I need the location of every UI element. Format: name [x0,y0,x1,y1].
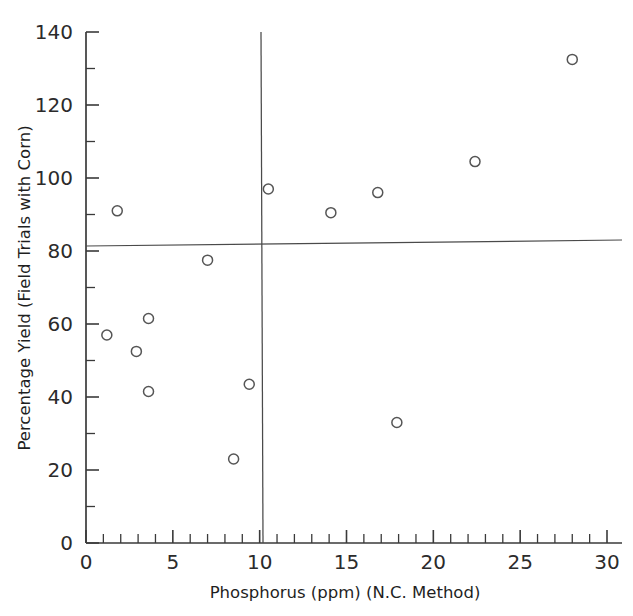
vertical-critical-level-line [261,32,263,543]
data-point-marker [567,54,577,64]
y-axis-tick-labels: 020406080100120140 [35,20,73,555]
data-point-marker [470,157,480,167]
x-tick-label: 20 [421,550,446,574]
y-tick-label: 100 [35,166,73,190]
data-point-marker [373,188,383,198]
reference-lines [86,32,622,543]
y-tick-label: 40 [48,385,73,409]
data-point-marker [229,454,239,464]
data-point-marker [326,208,336,218]
data-point-marker [102,330,112,340]
scatter-plot-figure: 020406080100120140 051015202530 Phosphor… [0,0,633,616]
data-point-marker [263,184,273,194]
data-point-marker [392,418,402,428]
y-tick-label: 60 [48,312,73,336]
data-point-marker [244,379,254,389]
x-tick-label: 10 [247,550,272,574]
data-point-group [102,54,577,464]
data-point-marker [131,346,141,356]
y-axis-title: Percentage Yield (Field Trials with Corn… [15,125,34,450]
x-axis-tick-labels: 051015202530 [80,550,620,574]
x-axis-ticks [86,530,607,543]
x-tick-label: 0 [80,550,93,574]
x-tick-label: 25 [507,550,532,574]
y-tick-label: 20 [48,458,73,482]
y-tick-label: 0 [60,531,73,555]
y-axis-ticks [86,32,99,543]
x-tick-label: 5 [166,550,179,574]
horizontal-yield-reference-line [86,240,622,246]
data-point-marker [144,387,154,397]
x-tick-label: 15 [334,550,359,574]
data-point-marker [112,206,122,216]
data-point-marker [203,255,213,265]
x-tick-label: 30 [594,550,619,574]
plot-canvas: 020406080100120140 051015202530 Phosphor… [0,0,633,616]
y-tick-label: 140 [35,20,73,44]
y-tick-label: 80 [48,239,73,263]
y-tick-label: 120 [35,93,73,117]
axis-lines [86,32,622,543]
data-point-marker [144,314,154,324]
x-axis-title: Phosphorus (ppm) (N.C. Method) [210,583,481,602]
